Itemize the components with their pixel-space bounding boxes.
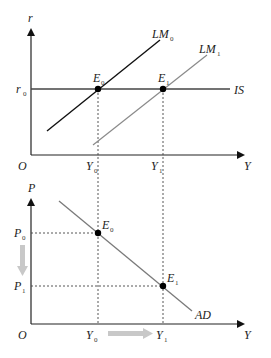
svg-text:0: 0: [94, 167, 98, 175]
upper-panel: r O Y r 0 Y 0 Y 1 E 0 E 1 LM 0 LM 1: [16, 11, 252, 324]
output-increase-arrow-icon: [108, 328, 153, 339]
svg-text:1: 1: [159, 167, 163, 175]
svg-text:Y: Y: [86, 159, 94, 173]
y1-label-upper: Y 1: [151, 159, 163, 175]
svg-text:0: 0: [110, 226, 114, 234]
p-axis-label: P: [27, 181, 36, 195]
y0-label-upper: Y 0: [86, 159, 98, 175]
svg-text:1: 1: [22, 287, 26, 295]
r-axis-label: r: [28, 11, 33, 25]
svg-text:E: E: [166, 271, 175, 285]
e0-label-lower: E 0: [101, 218, 114, 234]
e1-label-upper: E 1: [157, 71, 170, 87]
e0-point-lower: [95, 230, 101, 236]
e1-point-lower: [160, 283, 166, 289]
svg-text:0: 0: [94, 336, 98, 344]
svg-text:0: 0: [170, 35, 174, 43]
e1-label-lower: E 1: [166, 271, 179, 287]
svg-text:P: P: [13, 226, 22, 240]
islm-ad-diagram: r O Y r 0 Y 0 Y 1 E 0 E 1 LM 0 LM 1: [0, 0, 271, 358]
svg-text:LM: LM: [151, 27, 170, 41]
lm0-label: LM 0: [151, 27, 174, 43]
ad-curve: [59, 201, 192, 311]
lower-panel: P O Y P 0 P 1 Y 0 Y 1 E 0 E 1 AD: [13, 181, 252, 344]
svg-text:Y: Y: [156, 328, 164, 342]
ad-label: AD: [194, 308, 211, 322]
lm1-curve: [93, 55, 207, 145]
svg-text:0: 0: [101, 79, 105, 87]
svg-text:1: 1: [175, 279, 179, 287]
svg-text:P: P: [13, 279, 22, 293]
is-label: IS: [233, 83, 244, 97]
svg-text:0: 0: [22, 234, 26, 242]
svg-text:r: r: [16, 82, 21, 96]
svg-text:E: E: [92, 71, 101, 85]
price-decrease-arrow-icon: [17, 245, 28, 276]
svg-text:0: 0: [23, 90, 27, 98]
svg-text:1: 1: [166, 79, 170, 87]
y-axis-label-lower: Y: [244, 328, 252, 342]
svg-text:E: E: [101, 218, 110, 232]
y1-label-lower: Y 1: [156, 328, 168, 344]
origin-label-upper: O: [18, 159, 27, 173]
p0-label: P 0: [13, 226, 26, 242]
y0-label-lower: Y 0: [86, 328, 98, 344]
lm1-label: LM 1: [198, 42, 221, 58]
svg-text:Y: Y: [151, 159, 159, 173]
e0-label-upper: E 0: [92, 71, 105, 87]
svg-text:1: 1: [164, 336, 168, 344]
svg-text:Y: Y: [86, 328, 94, 342]
svg-text:LM: LM: [198, 42, 217, 56]
origin-label-lower: O: [18, 328, 27, 342]
p1-label: P 1: [13, 279, 26, 295]
svg-text:E: E: [157, 71, 166, 85]
r0-label: r 0: [16, 82, 27, 98]
y-axis-label-upper: Y: [244, 159, 252, 173]
svg-text:1: 1: [217, 50, 221, 58]
